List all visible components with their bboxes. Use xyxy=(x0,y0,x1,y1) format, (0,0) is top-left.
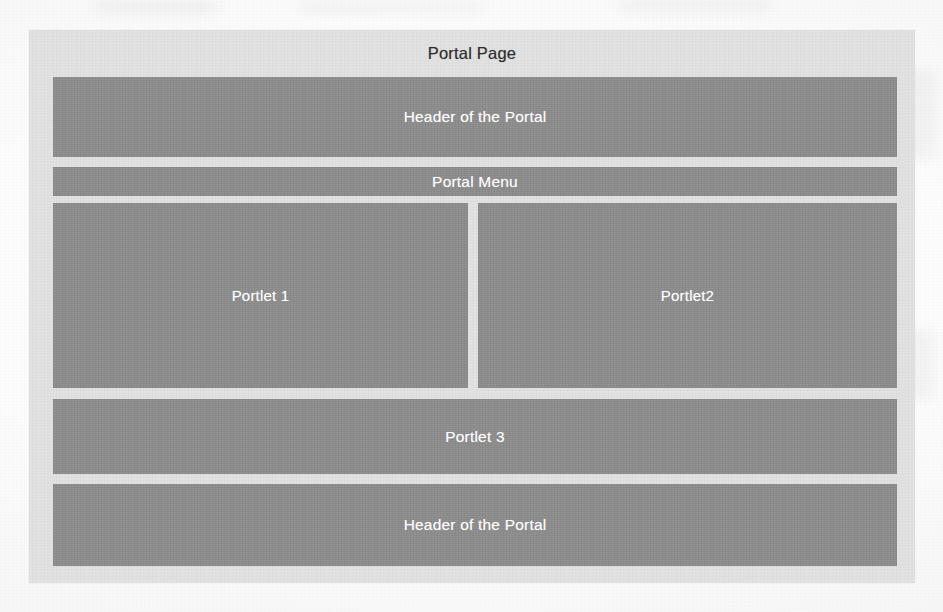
portal-menu-label: Portal Menu xyxy=(432,173,518,191)
portlet-2-label: Portlet2 xyxy=(661,287,714,304)
scan-smudge xyxy=(96,0,216,14)
portlet-1-region[interactable]: Portlet 1 xyxy=(53,203,468,388)
portal-menu-region[interactable]: Portal Menu xyxy=(53,167,897,196)
scanned-page: Portal Page Header of the Portal Portal … xyxy=(0,0,943,612)
portal-page-container: Portal Page Header of the Portal Portal … xyxy=(29,30,915,583)
scan-smudge xyxy=(620,0,770,12)
scan-smudge xyxy=(300,2,480,12)
portlet-3-region[interactable]: Portlet 3 xyxy=(53,399,897,474)
page-title: Portal Page xyxy=(29,44,915,63)
portlet-2-region[interactable]: Portlet2 xyxy=(478,203,897,388)
portal-footer-region[interactable]: Header of the Portal xyxy=(53,484,897,566)
portlet-1-label: Portlet 1 xyxy=(232,287,290,304)
portal-header-region[interactable]: Header of the Portal xyxy=(53,77,897,157)
portal-footer-label: Header of the Portal xyxy=(404,516,547,534)
portal-header-label: Header of the Portal xyxy=(404,108,547,126)
portlet-3-label: Portlet 3 xyxy=(445,428,505,446)
